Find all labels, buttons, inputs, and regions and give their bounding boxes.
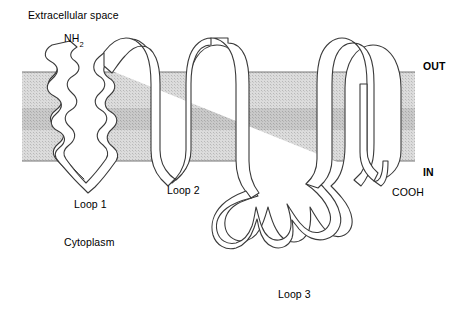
- label-n-terminus-subscript: 2: [79, 40, 83, 49]
- label-loop-3: Loop 3: [278, 288, 311, 300]
- label-loop-1: Loop 1: [74, 198, 107, 210]
- label-in: IN: [423, 166, 434, 178]
- membrane-protein-diagram: Extracellular space NH2 OUT IN Loop 1 Lo…: [0, 0, 464, 312]
- label-c-terminus: COOH: [392, 186, 424, 198]
- label-n-terminus: NH2: [64, 32, 84, 47]
- label-extracellular-space: Extracellular space: [28, 9, 119, 21]
- label-n-terminus-text: NH: [64, 32, 79, 44]
- label-cytoplasm: Cytoplasm: [64, 236, 115, 248]
- label-loop-2: Loop 2: [167, 184, 200, 196]
- label-out: OUT: [423, 60, 445, 72]
